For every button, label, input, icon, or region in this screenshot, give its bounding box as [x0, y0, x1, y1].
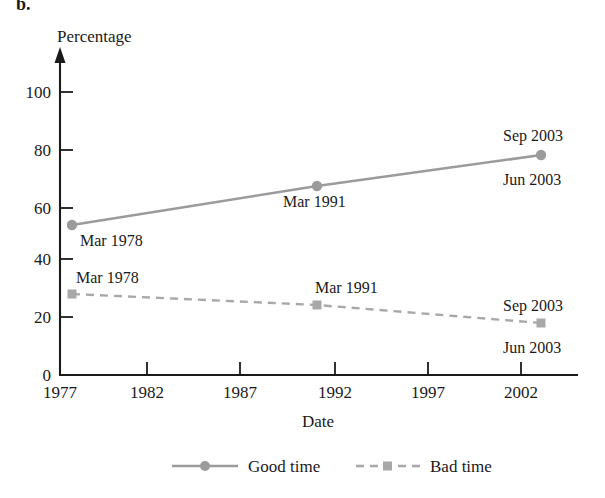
annotation-bad-jun-2003: Jun 2003: [503, 339, 561, 356]
annotation-good-mar-1978: Mar 1978: [80, 232, 143, 249]
data-point-good-2003: [536, 150, 546, 160]
x-axis-title: Date: [302, 412, 334, 431]
x-tick-label-2002: 2002: [504, 383, 538, 402]
figure-panel-b: b. Percentage 100 80 60 40 20 0: [0, 0, 605, 498]
y-tick-label-40: 40: [34, 250, 51, 269]
line-chart: Percentage 100 80 60 40 20 0: [0, 0, 605, 498]
annotation-bad-sep-2003: Sep 2003: [503, 297, 563, 315]
x-axis-ticks: [60, 362, 521, 375]
annotation-good-jun-2003: Jun 2003: [503, 171, 561, 188]
legend-item-good-time[interactable]: Good time: [172, 457, 320, 476]
data-point-bad-1978: [68, 290, 77, 299]
series-good-time: [67, 150, 546, 230]
annotation-good-mar-1991: Mar 1991: [283, 193, 346, 210]
y-axis-ticks: [60, 92, 73, 317]
annotation-bad-mar-1978: Mar 1978: [76, 269, 139, 286]
y-tick-label-100: 100: [26, 83, 52, 102]
x-tick-label-1977: 1977: [43, 383, 78, 402]
y-tick-label-20: 20: [34, 308, 51, 327]
x-tick-label-1982: 1982: [130, 383, 164, 402]
legend-marker-circle-icon: [200, 461, 210, 471]
annotation-bad-mar-1991: Mar 1991: [315, 279, 378, 296]
x-tick-label-1987: 1987: [223, 383, 258, 402]
legend-label-bad-time: Bad time: [430, 457, 492, 476]
x-tick-label-1997: 1997: [411, 383, 446, 402]
legend-label-good-time: Good time: [248, 457, 320, 476]
legend-marker-square-icon: [383, 462, 392, 471]
legend-item-bad-time[interactable]: Bad time: [356, 457, 492, 476]
data-point-good-1978: [67, 220, 77, 230]
y-tick-label-60: 60: [34, 199, 51, 218]
y-axis: [55, 47, 66, 376]
x-tick-label-1992: 1992: [318, 383, 352, 402]
y-axis-arrowhead: [55, 47, 66, 63]
data-point-bad-1991: [313, 301, 322, 310]
data-point-bad-2003: [537, 319, 546, 328]
series-bad-time: [68, 290, 546, 328]
y-axis-title: Percentage: [57, 27, 132, 46]
chart-legend: Good time Bad time: [172, 457, 492, 476]
y-tick-label-80: 80: [34, 141, 51, 160]
annotation-good-sep-2003: Sep 2003: [503, 127, 563, 145]
data-point-good-1991: [312, 181, 322, 191]
